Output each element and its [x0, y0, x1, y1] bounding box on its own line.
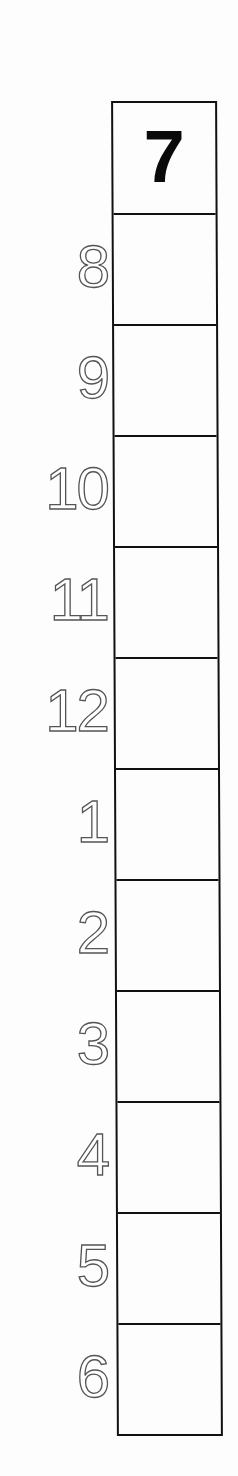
hour-label: 12 [0, 681, 108, 741]
hour-label: 3 [0, 1014, 108, 1074]
header-cell: 7 [113, 103, 215, 213]
hour-label: 2 [0, 903, 108, 963]
hour-label: 8 [0, 237, 108, 297]
slot-11[interactable] [115, 546, 217, 657]
slot-8[interactable] [114, 213, 216, 324]
slot-1[interactable] [116, 768, 218, 879]
hour-label: 9 [0, 348, 108, 408]
hour-label: 10 [0, 459, 108, 519]
slot-12[interactable] [116, 657, 218, 768]
slot-10[interactable] [115, 435, 217, 546]
slot-5[interactable] [118, 1212, 220, 1323]
slot-9[interactable] [114, 324, 216, 435]
hour-label: 5 [0, 1236, 108, 1296]
hour-label: 4 [0, 1125, 108, 1185]
slot-4[interactable] [117, 1101, 219, 1212]
hour-label: 11 [0, 570, 108, 630]
slot-6[interactable] [118, 1323, 220, 1434]
hour-schedule: 7 [111, 101, 223, 1436]
hour-label: 1 [0, 792, 108, 852]
header-hour: 7 [113, 107, 215, 207]
slot-2[interactable] [116, 879, 218, 990]
hour-label: 6 [0, 1347, 108, 1407]
slot-3[interactable] [117, 990, 219, 1101]
